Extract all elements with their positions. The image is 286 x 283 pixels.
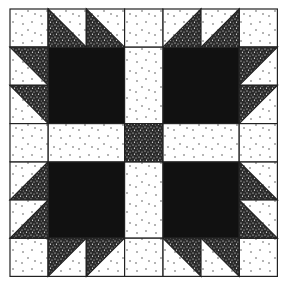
sashing-strip — [10, 124, 48, 162]
sashing-strip — [125, 162, 163, 238]
corner-square-bottom-right — [239, 238, 277, 276]
paw-pad-bottom-right — [163, 162, 239, 238]
sashing-strip — [125, 47, 163, 123]
corner-square-bottom-left — [10, 238, 48, 276]
sashing-strip — [239, 124, 277, 162]
sashing-strip — [125, 9, 163, 47]
sashing-strip — [125, 238, 163, 276]
paw-pad-top-right — [163, 47, 239, 123]
sashing-strip — [48, 124, 124, 162]
sashing-strip — [163, 124, 239, 162]
bears-paw-quilt-block — [0, 0, 286, 283]
paw-pad-top-left — [48, 47, 124, 123]
paw-pad-bottom-left — [48, 162, 124, 238]
center-square — [125, 124, 163, 162]
corner-square-top-right — [239, 9, 277, 47]
corner-square-top-left — [10, 9, 48, 47]
